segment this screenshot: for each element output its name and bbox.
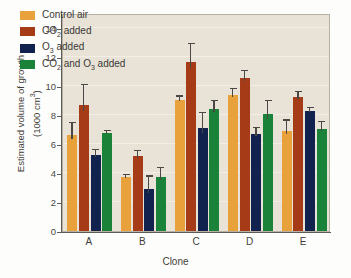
bar[interactable] <box>91 155 101 231</box>
error-bar <box>179 97 180 102</box>
bar[interactable] <box>263 114 273 231</box>
bar-slot <box>293 15 303 231</box>
error-bar-cap <box>157 167 164 168</box>
x-tick-label-e: E <box>283 236 323 247</box>
bar[interactable] <box>79 105 89 231</box>
bar-slot <box>305 15 315 231</box>
legend: Control air CO2 added O3 added CO2 and O… <box>20 8 125 74</box>
bar[interactable] <box>156 177 166 232</box>
superscript-3: 3 <box>29 93 36 97</box>
y-tick-label: 8 <box>16 111 56 121</box>
error-bar <box>106 131 107 134</box>
error-bar <box>137 151 138 158</box>
error-bar <box>321 122 322 131</box>
error-bar <box>125 175 126 178</box>
bar[interactable] <box>144 189 154 231</box>
bar[interactable] <box>198 128 208 231</box>
error-bar <box>244 71 245 81</box>
bar[interactable] <box>175 100 185 231</box>
error-bar <box>83 85 84 111</box>
bar-slot <box>282 15 292 231</box>
error-bar-cap <box>104 130 111 131</box>
legend-label-control-air: Control air <box>42 10 88 20</box>
bar-slot <box>175 15 185 231</box>
error-bar <box>309 108 310 112</box>
error-bar-cap <box>188 43 195 44</box>
error-bar-cap <box>69 122 76 123</box>
error-bar <box>232 89 233 97</box>
bar[interactable] <box>67 135 77 231</box>
y-tick-mark <box>57 232 61 233</box>
error-bar <box>286 121 287 135</box>
error-bar-cap <box>81 84 88 85</box>
error-bar-cap <box>241 70 248 71</box>
y-tick-mark <box>57 87 61 88</box>
error-bar-cap <box>253 127 260 128</box>
bar[interactable] <box>133 156 143 231</box>
y-tick-label: 4 <box>16 169 56 179</box>
y-tick-label: 6 <box>16 140 56 150</box>
error-bar-cap <box>307 107 314 108</box>
bar-slot <box>198 15 208 231</box>
y-tick-label: 10 <box>16 82 56 92</box>
bar[interactable] <box>293 97 303 231</box>
error-bar-cap <box>318 121 325 122</box>
y-tick-mark <box>57 174 61 175</box>
bar-slot <box>133 15 143 231</box>
y-tick-label: 2 <box>16 198 56 208</box>
bar[interactable] <box>102 133 112 231</box>
bar[interactable] <box>121 177 131 231</box>
bar[interactable] <box>251 134 261 231</box>
error-bar <box>213 101 214 112</box>
y-tick-mark <box>57 145 61 146</box>
bar-slot <box>144 15 154 231</box>
error-bar-cap <box>134 150 141 151</box>
y-tick-mark <box>57 116 61 117</box>
bar[interactable] <box>317 129 327 231</box>
x-tick-label-b: B <box>122 236 162 247</box>
error-bar-cap <box>211 100 218 101</box>
error-bar-cap <box>92 149 99 150</box>
y-tick-mark <box>57 58 61 59</box>
error-bar-cap <box>146 175 153 176</box>
bar[interactable] <box>305 111 315 231</box>
bar[interactable] <box>209 109 219 231</box>
bar[interactable] <box>228 95 238 231</box>
error-bar <box>160 168 161 180</box>
y-tick-mark <box>57 203 61 204</box>
error-bar <box>95 150 96 157</box>
x-tick-label-a: A <box>69 236 109 247</box>
bar-chart-figure: Estimated volume of growth (1000 cm3) Cl… <box>0 0 351 278</box>
error-bar-cap <box>283 119 290 120</box>
error-bar <box>148 177 149 194</box>
bar[interactable] <box>282 131 292 231</box>
error-bar <box>71 123 72 140</box>
bar-slot <box>186 15 196 231</box>
bar-slot <box>228 15 238 231</box>
error-bar-cap <box>295 91 302 92</box>
x-axis-line <box>61 232 331 233</box>
bar-slot <box>317 15 327 231</box>
x-tick-label-c: C <box>176 236 216 247</box>
error-bar-cap <box>123 174 130 175</box>
bar[interactable] <box>240 78 250 231</box>
bar-slot <box>156 15 166 231</box>
error-bar <box>255 128 256 136</box>
error-bar <box>297 92 298 99</box>
y-tick-label: 0 <box>16 227 56 237</box>
legend-swatch-o3-added <box>20 44 35 53</box>
error-bar-cap <box>176 95 183 96</box>
error-bar <box>190 44 191 68</box>
y-tick-label: 12 <box>16 53 56 63</box>
x-axis-title: Clone <box>0 256 351 267</box>
bar-slot <box>263 15 273 231</box>
legend-swatch-control-air <box>20 11 35 20</box>
error-bar-cap <box>199 112 206 113</box>
x-tick-label-d: D <box>230 236 270 247</box>
bar-slot <box>209 15 219 231</box>
y-tick-label: 14 <box>16 24 56 34</box>
bar[interactable] <box>186 62 196 231</box>
bar-slot <box>251 15 261 231</box>
bar-slot <box>240 15 250 231</box>
error-bar <box>202 113 203 133</box>
